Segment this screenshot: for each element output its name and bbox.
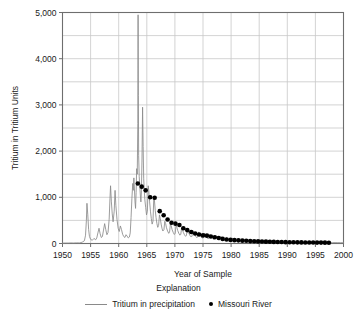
data-point: [177, 223, 182, 228]
data-point: [197, 232, 202, 237]
data-point: [228, 238, 233, 243]
data-point: [181, 226, 186, 231]
data-point: [275, 240, 280, 245]
data-point: [311, 240, 316, 245]
x-tick-label: 1970: [165, 250, 184, 260]
x-tick-label: 1965: [137, 250, 156, 260]
y-tick-label: 5,000: [35, 8, 57, 18]
data-point: [287, 240, 292, 245]
missouri-river-points: [136, 181, 332, 245]
gridlines: [63, 13, 344, 244]
x-tick-label: 1995: [306, 250, 325, 260]
y-tick-label: 0: [52, 239, 57, 249]
data-point: [244, 239, 249, 244]
data-point: [327, 240, 332, 245]
data-point: [268, 239, 273, 244]
data-point: [209, 234, 214, 239]
data-point: [232, 238, 237, 243]
axis-ticks: [59, 13, 344, 248]
y-tick-label: 3,000: [35, 100, 57, 110]
data-point: [152, 195, 157, 200]
legend-title: Explanation: [0, 282, 357, 294]
data-point: [165, 217, 170, 222]
data-point: [193, 231, 198, 236]
y-tick-label: 2,000: [35, 146, 57, 156]
data-point: [185, 228, 190, 233]
y-axis-tick-labels: 01,0002,0003,0004,0005,000: [35, 8, 57, 249]
data-point: [169, 220, 174, 225]
chart-legend: Explanation Tritium in precipitation Mis…: [0, 282, 357, 309]
data-point: [189, 230, 194, 235]
data-point: [315, 240, 320, 245]
data-point: [220, 237, 225, 242]
dot-swatch-icon: [209, 302, 213, 306]
data-point: [213, 235, 218, 240]
data-point: [161, 213, 166, 218]
data-point: [136, 181, 141, 186]
legend-label-missouri-river: Missouri River: [218, 299, 272, 309]
data-point: [256, 239, 261, 244]
data-point: [291, 240, 296, 245]
data-point: [236, 238, 241, 243]
data-point: [283, 240, 288, 245]
x-tick-label: 1975: [194, 250, 213, 260]
x-tick-label: 1955: [81, 250, 100, 260]
data-point: [248, 239, 253, 244]
legend-entry-precipitation: Tritium in precipitation: [85, 299, 195, 309]
data-point: [201, 233, 206, 238]
data-point: [143, 188, 148, 193]
legend-entry-missouri-river: Missouri River: [209, 299, 272, 309]
tritium-time-series-figure: 01,0002,0003,0004,0005,000 1950195519601…: [0, 0, 357, 334]
legend-label-precipitation: Tritium in precipitation: [112, 299, 195, 309]
data-point: [252, 239, 257, 244]
data-point: [279, 240, 284, 245]
data-point: [303, 240, 308, 245]
data-point: [224, 237, 229, 242]
data-point: [323, 240, 328, 245]
data-point: [157, 209, 162, 214]
x-axis-tick-labels: 1950195519601965197019751980198519901995…: [53, 250, 353, 260]
data-point: [299, 240, 304, 245]
data-point: [205, 233, 210, 238]
data-point: [272, 240, 277, 245]
legend-entries: Tritium in precipitation Missouri River: [0, 299, 357, 309]
y-axis-title: Tritium in Tritium Units: [10, 86, 20, 170]
data-point: [264, 239, 269, 244]
data-point: [148, 195, 153, 200]
x-tick-label: 1980: [222, 250, 241, 260]
x-tick-label: 1950: [53, 250, 72, 260]
data-point: [295, 240, 300, 245]
data-point: [173, 221, 178, 226]
data-point: [139, 184, 144, 189]
x-tick-label: 1985: [250, 250, 269, 260]
data-point: [240, 238, 245, 243]
x-tick-label: 1990: [278, 250, 297, 260]
line-swatch-icon: [85, 304, 107, 305]
data-point: [319, 240, 324, 245]
data-point: [307, 240, 312, 245]
data-point: [260, 239, 265, 244]
x-axis-title: Year of Sample: [174, 269, 232, 279]
x-tick-label: 2000: [334, 250, 353, 260]
y-tick-label: 1,000: [35, 192, 57, 202]
y-tick-label: 4,000: [35, 54, 57, 64]
x-tick-label: 1960: [109, 250, 128, 260]
data-point: [216, 236, 221, 241]
